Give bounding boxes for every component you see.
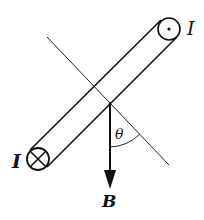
angle-label: θ <box>115 127 123 141</box>
current-label-top: I <box>187 19 195 38</box>
current-label-bottom: I <box>12 152 21 171</box>
field-label: B <box>102 193 116 210</box>
rod-lower-edge <box>47 37 177 167</box>
magnetic-loop-diagram <box>0 0 204 220</box>
current-in-icon <box>27 148 49 170</box>
current-out-icon <box>158 18 180 40</box>
normal-line <box>47 37 169 165</box>
field-arrow-icon <box>104 102 116 189</box>
